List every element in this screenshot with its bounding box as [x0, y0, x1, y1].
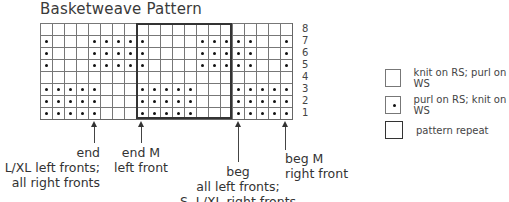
chart-title: Basketweave Pattern	[40, 0, 202, 18]
annotation-line: left front	[113, 160, 169, 175]
knit-stitch-cell	[268, 59, 280, 71]
knit-stitch-cell	[52, 23, 64, 35]
knit-stitch-cell	[64, 47, 76, 59]
purl-stitch-cell	[184, 107, 196, 119]
purl-stitch-cell	[148, 95, 160, 107]
annotation-line: S, L/XL left fronts;	[0, 160, 100, 175]
purl-stitch-cell	[112, 59, 124, 71]
knit-stitch-cell	[100, 95, 112, 107]
knit-stitch-cell	[172, 47, 184, 59]
knit-stitch-cell	[100, 107, 112, 119]
knit-stitch-cell	[268, 35, 280, 47]
knit-stitch-cell	[232, 23, 244, 35]
purl-stitch-cell	[52, 95, 64, 107]
row-number: 1	[302, 107, 308, 119]
row-number: 6	[302, 47, 308, 59]
knit-stitch-cell	[76, 35, 88, 47]
knit-stitch-cell	[112, 23, 124, 35]
knit-stitch-cell	[244, 71, 256, 83]
legend-item-knit: knit on RS; purl on WS	[385, 67, 509, 89]
annotation-beg-m: beg M right front	[285, 151, 348, 181]
knit-stitch-cell	[148, 35, 160, 47]
row-number: 8	[302, 23, 308, 35]
knit-stitch-cell	[172, 35, 184, 47]
purl-stitch-cell	[136, 95, 148, 107]
purl-stitch-cell	[160, 107, 172, 119]
purl-stitch-cell	[208, 47, 220, 59]
purl-stitch-cell	[40, 83, 52, 95]
annotation-line: S, L/XL right fronts	[178, 194, 298, 202]
arrow-up-icon	[94, 126, 95, 143]
knit-stitch-cell	[208, 71, 220, 83]
purl-stitch-cell	[232, 83, 244, 95]
knit-stitch-cell	[172, 59, 184, 71]
knit-stitch-cell	[76, 71, 88, 83]
purl-stitch-cell	[268, 107, 280, 119]
purl-stitch-cell	[184, 83, 196, 95]
dot-square-icon	[385, 96, 401, 114]
purl-stitch-cell	[136, 107, 148, 119]
purl-stitch-cell	[232, 95, 244, 107]
knit-stitch-cell	[256, 35, 268, 47]
purl-stitch-cell	[88, 47, 100, 59]
legend-item-purl: purl on RS; knit on WS	[385, 94, 509, 116]
knit-stitch-cell	[268, 47, 280, 59]
knit-stitch-cell	[268, 23, 280, 35]
knit-stitch-cell	[88, 23, 100, 35]
annotation-line: end	[0, 145, 100, 160]
knit-stitch-cell	[76, 47, 88, 59]
knit-stitch-cell	[208, 23, 220, 35]
knit-stitch-cell	[280, 71, 292, 83]
knit-stitch-cell	[208, 95, 220, 107]
purl-stitch-cell	[196, 35, 208, 47]
annotation-end-small: end S, L/XL left fronts; all right front…	[0, 145, 100, 190]
knit-stitch-cell	[184, 47, 196, 59]
purl-stitch-cell	[220, 47, 232, 59]
knit-stitch-cell	[196, 23, 208, 35]
purl-stitch-cell	[40, 107, 52, 119]
knit-stitch-cell	[160, 23, 172, 35]
purl-stitch-cell	[244, 47, 256, 59]
purl-stitch-cell	[124, 59, 136, 71]
purl-stitch-cell	[88, 35, 100, 47]
knit-stitch-cell	[40, 23, 52, 35]
knit-stitch-cell	[124, 23, 136, 35]
purl-stitch-cell	[244, 83, 256, 95]
knit-stitch-cell	[220, 71, 232, 83]
legend-label: knit on RS; purl on WS	[414, 67, 509, 89]
purl-stitch-cell	[172, 95, 184, 107]
knit-stitch-cell	[220, 107, 232, 119]
annotation-line: all left fronts;	[178, 179, 298, 194]
row-number: 7	[302, 35, 308, 47]
purl-stitch-cell	[76, 95, 88, 107]
annotation-line: right front	[285, 166, 348, 181]
annotation-end-m: end M left front	[113, 145, 169, 175]
knit-stitch-cell	[100, 71, 112, 83]
purl-stitch-cell	[100, 35, 112, 47]
purl-stitch-cell	[232, 35, 244, 47]
purl-stitch-cell	[64, 107, 76, 119]
annotation-line: all right fronts	[0, 175, 100, 190]
arrow-up-icon	[238, 126, 239, 162]
knit-stitch-cell	[124, 83, 136, 95]
knit-stitch-cell	[112, 83, 124, 95]
purl-stitch-cell	[220, 59, 232, 71]
row-number: 5	[302, 59, 308, 71]
legend-label: pattern repeat	[416, 125, 489, 136]
row-number: 4	[302, 71, 308, 83]
knit-stitch-cell	[244, 23, 256, 35]
knit-stitch-cell	[52, 47, 64, 59]
purl-stitch-cell	[76, 83, 88, 95]
knit-stitch-cell	[268, 71, 280, 83]
row-numbers: 87654321	[302, 23, 308, 119]
knit-stitch-cell	[220, 83, 232, 95]
knit-stitch-cell	[100, 83, 112, 95]
annotation-line: beg M	[285, 151, 348, 166]
purl-stitch-cell	[52, 107, 64, 119]
knit-stitch-cell	[184, 23, 196, 35]
knit-stitch-cell	[220, 23, 232, 35]
purl-stitch-cell	[124, 35, 136, 47]
knit-stitch-cell	[256, 71, 268, 83]
knit-stitch-cell	[160, 47, 172, 59]
knit-stitch-cell	[136, 71, 148, 83]
